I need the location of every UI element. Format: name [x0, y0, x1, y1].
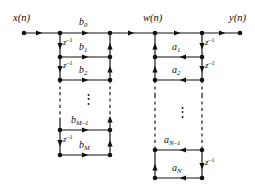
z-base: z [63, 60, 67, 70]
node-ff-s2 [108, 78, 113, 83]
arrow-delay-right-1 [199, 43, 204, 49]
node-fb-dN1 [200, 148, 205, 153]
node-fb-top [200, 31, 205, 36]
arrow-aN [180, 175, 186, 180]
delay-label-left-3: z–1 [63, 135, 73, 144]
node-input [22, 31, 27, 36]
node-fb-d1 [200, 55, 205, 60]
arrow-main-3 [128, 30, 134, 35]
a1-subscript: 1 [177, 46, 180, 53]
z-exponent: –1 [67, 37, 73, 43]
arrow-a1 [180, 54, 186, 59]
arrow-b1 [82, 54, 88, 59]
intermediate-signal-label: w(n) [143, 13, 162, 24]
input-signal-label: x(n) [13, 13, 30, 24]
arrow-bM1 [82, 127, 88, 132]
delay-label-right-1: z–1 [205, 38, 215, 47]
node-ff-d2 [58, 78, 63, 83]
arrow-b2 [82, 77, 88, 82]
b0-subscript: 0 [84, 21, 87, 28]
arrow-delay-right-3 [199, 163, 204, 169]
node-ff-sum-top [108, 31, 113, 36]
signal-flow-graph-canvas [0, 0, 255, 193]
b2-subscript: 2 [84, 69, 87, 76]
arrow-sum-left-3 [107, 116, 112, 122]
flow-arrowheads [36, 30, 225, 180]
arrow-main-2 [82, 30, 88, 35]
delay-label-left-2: z–1 [63, 61, 73, 70]
z-base: z [205, 157, 209, 167]
node-fb-n2 [153, 78, 158, 83]
node-w [153, 31, 158, 36]
output-signal-label: y(n) [229, 13, 246, 24]
aN1-subscript: N–1 [169, 139, 180, 146]
arrow-sum-right-3 [152, 164, 157, 170]
node-ff-dM1 [58, 128, 63, 133]
z-exponent: –1 [209, 157, 215, 163]
feedforward-ellipsis: ⋮ [82, 92, 95, 105]
coefficient-label-aN-1: aN–1 [164, 135, 180, 145]
z-exponent: –1 [67, 60, 73, 66]
coefficient-label-b2: b2 [79, 65, 87, 75]
node-ff-dM [58, 153, 63, 158]
arrow-delay-left-3 [57, 140, 62, 146]
arrow-sum-right-2 [152, 66, 157, 72]
arrow-sum-left-4 [107, 140, 112, 146]
arrow-a2 [180, 77, 186, 82]
z-base: z [63, 134, 67, 144]
node-ff-d1 [58, 55, 63, 60]
arrow-main-4 [174, 30, 180, 35]
bM1-subscript: M–1 [76, 119, 88, 126]
arrow-sum-left-2 [107, 66, 112, 72]
node-ff-sM1 [108, 128, 113, 133]
arrow-delay-left-1 [57, 43, 62, 49]
aN-subscript: N [177, 167, 182, 174]
node-ff-s1 [108, 55, 113, 60]
feedback-ellipsis: ⋮ [176, 105, 189, 118]
arrow-aN1 [180, 147, 186, 152]
arrow-sum-left-1 [107, 43, 112, 49]
arrow-main-5 [219, 30, 225, 35]
z-exponent: –1 [209, 37, 215, 43]
z-exponent: –1 [67, 134, 73, 140]
node-fb-n1 [153, 55, 158, 60]
coefficient-label-b1: b1 [79, 42, 87, 52]
arrow-delay-right-2 [199, 66, 204, 72]
z-base: z [63, 37, 67, 47]
arrow-main-1 [36, 30, 42, 35]
z-base: z [205, 37, 209, 47]
node-fb-nN1 [153, 148, 158, 153]
node-fb-nN [153, 176, 158, 181]
coefficient-label-bM-1: bM–1 [71, 115, 88, 125]
coefficient-label-b0: b0 [79, 17, 87, 27]
signal-flow-graph-figure: x(n) w(n) y(n) b0 b1 b2 bM–1 bM a1 a2 aN… [0, 0, 255, 193]
z-exponent: –1 [209, 60, 215, 66]
coefficient-label-aN: aN [172, 163, 182, 173]
coefficient-label-a2: a2 [172, 65, 180, 75]
delay-label-right-3: z–1 [205, 158, 215, 167]
arrow-bM [82, 152, 88, 157]
arrow-delay-left-2 [57, 66, 62, 72]
node-fb-d2 [200, 78, 205, 83]
node-fb-dN [200, 176, 205, 181]
z-base: z [205, 60, 209, 70]
bM-subscript: M [84, 144, 90, 151]
coefficient-label-a1: a1 [172, 42, 180, 52]
coefficient-label-bM: bM [79, 140, 90, 150]
node-ff-top [58, 31, 63, 36]
arrow-sum-right-1 [152, 43, 157, 49]
node-output [238, 31, 243, 36]
delay-label-left-1: z–1 [63, 38, 73, 47]
node-ff-sM [108, 153, 113, 158]
a2-subscript: 2 [177, 69, 180, 76]
b1-subscript: 1 [84, 46, 87, 53]
delay-label-right-2: z–1 [205, 61, 215, 70]
